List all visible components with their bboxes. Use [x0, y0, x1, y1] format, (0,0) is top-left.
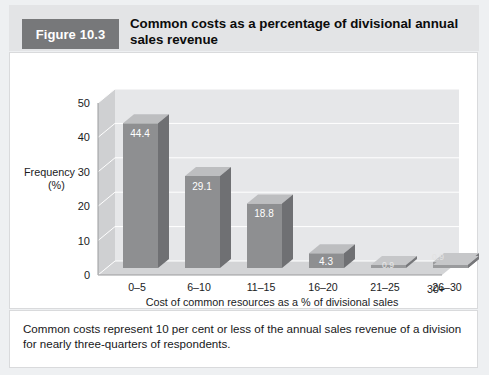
bar-chart: 44.4 29.1 18.8 — [10, 53, 479, 310]
bar-side — [158, 114, 169, 268]
y-axis-title-line-2: (%) — [48, 179, 65, 191]
x-tick-0-5: 0–5 — [128, 281, 146, 293]
y-tick-20: 20 — [78, 200, 90, 212]
x-tick-6-10: 6–10 — [187, 281, 211, 293]
caption-text: Common costs represent 10 per cent or le… — [23, 321, 463, 351]
x-tick-30plus: 30+ — [406, 283, 466, 295]
caption-panel: Common costs represent 10 per cent or le… — [9, 310, 478, 368]
y-tick-40: 40 — [78, 131, 90, 143]
figure-number-box: Figure 10.3 — [22, 19, 119, 49]
bar-value-label: 29.1 — [192, 181, 212, 192]
y-axis-title-line-1: Frequency — [24, 166, 76, 178]
bar-6-10: 29.1 — [185, 167, 231, 268]
bar-face — [433, 265, 468, 268]
chart-panel: 44.4 29.1 18.8 — [9, 52, 478, 309]
bar-side — [220, 167, 231, 268]
bar-value-label: 18.8 — [254, 208, 274, 219]
y-tick-30: 30 — [78, 166, 90, 178]
x-tick-11-15: 11–15 — [247, 281, 276, 293]
bar-11-15: 18.8 — [247, 195, 293, 268]
y-tick-0: 0 — [84, 269, 90, 281]
figure-container: Figure 10.3 Common costs as a percentage… — [0, 0, 489, 375]
bar-face — [123, 123, 158, 268]
bar-value-label: 0.9 — [382, 260, 394, 270]
x-tick-16-20: 16–20 — [308, 281, 338, 293]
y-tick-10: 10 — [78, 235, 90, 247]
x-axis-title: Cost of common resources as a % of divis… — [146, 296, 399, 308]
bar-value-label: 4.3 — [319, 256, 333, 267]
x-tick-21-25: 21–25 — [370, 281, 400, 293]
figure-title: Common costs as a percentage of division… — [130, 16, 480, 47]
bar-value-label-30plus: 0.9 — [421, 252, 455, 262]
figure-title-line-2: sales revenue — [130, 32, 480, 48]
bar-value-label: 44.4 — [130, 128, 150, 139]
bar-0-5: 44.4 — [123, 114, 169, 268]
bar-16-20: 4.3 — [309, 244, 355, 268]
figure-title-line-1: Common costs as a percentage of division… — [130, 16, 480, 32]
figure-number-label: Figure 10.3 — [36, 27, 106, 42]
bar-side — [282, 195, 293, 268]
figure-header: Figure 10.3 Common costs as a percentage… — [9, 5, 479, 51]
chart-left-wall — [98, 89, 115, 275]
chart-svg: 44.4 29.1 18.8 — [10, 53, 479, 310]
y-tick-50: 50 — [78, 97, 90, 109]
